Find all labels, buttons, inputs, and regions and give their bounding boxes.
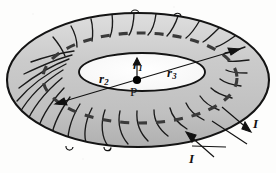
label-r2-subscript: 2 [104,77,108,87]
point-p-marker [133,76,141,84]
label-r3: r3 [167,66,177,81]
label-point-p: P [130,85,137,98]
label-r1-subscript: 1 [138,63,142,73]
label-r3-subscript: 3 [172,71,176,81]
label-r2: r2 [99,72,109,87]
label-current-right: I [253,117,258,130]
toroid-figure: r1 r2 r3 P I I [0,0,276,173]
label-current-bottom: I [189,152,194,165]
toroid-illustration [0,0,276,173]
label-r1: r1 [133,58,143,73]
